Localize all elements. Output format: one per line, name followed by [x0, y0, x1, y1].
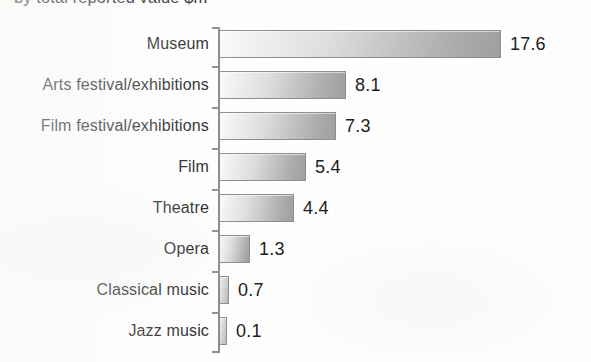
- bar: [220, 112, 336, 140]
- bar-row: Jazz music 0.1: [0, 312, 591, 350]
- bar-value-label: 7.3: [345, 116, 371, 137]
- bar-chart-figure: by total reported value $m Museum 17.6 A…: [0, 0, 591, 362]
- category-label: Opera: [164, 240, 218, 258]
- bar-row: Film festival/exhibitions 7.3: [0, 107, 591, 145]
- bar: [220, 153, 306, 181]
- bar-row: Arts festival/exhibitions 8.1: [0, 66, 591, 104]
- axis-tick: [212, 271, 220, 273]
- bar-value-label: 4.4: [303, 198, 329, 219]
- bar-value-label: 0.1: [236, 321, 262, 342]
- bar-row: Theatre 4.4: [0, 189, 591, 227]
- axis-tick: [212, 148, 220, 150]
- bar-value-label: 5.4: [315, 157, 341, 178]
- category-label: Theatre: [153, 199, 218, 217]
- bar: [220, 235, 250, 263]
- category-label: Museum: [147, 35, 218, 53]
- axis-tick: [212, 351, 220, 353]
- bar-group: 7.3: [220, 112, 371, 140]
- bar: [220, 317, 227, 345]
- bar: [220, 194, 294, 222]
- category-label: Classical music: [97, 281, 219, 299]
- bar: [220, 30, 501, 58]
- bar: [220, 276, 229, 304]
- bar-value-label: 8.1: [355, 75, 381, 96]
- bar-group: 0.1: [220, 317, 262, 345]
- plot-area: Museum 17.6 Arts festival/exhibitions 8.…: [0, 0, 591, 362]
- category-label: Film festival/exhibitions: [41, 117, 218, 135]
- bar-group: 8.1: [220, 71, 381, 99]
- bar-value-label: 17.6: [510, 34, 546, 55]
- axis-tick: [212, 27, 220, 29]
- bar-row: Opera 1.3: [0, 230, 591, 268]
- axis-tick: [212, 107, 220, 109]
- bar-group: 4.4: [220, 194, 329, 222]
- bar-row: Film 5.4: [0, 148, 591, 186]
- category-label: Film: [178, 158, 218, 176]
- axis-tick: [212, 230, 220, 232]
- bar-group: 0.7: [220, 276, 264, 304]
- bar-row: Classical music 0.7: [0, 271, 591, 309]
- category-label: Arts festival/exhibitions: [43, 76, 218, 94]
- category-label: Jazz music: [128, 322, 218, 340]
- bar-group: 17.6: [220, 30, 546, 58]
- bar: [220, 71, 346, 99]
- axis-tick: [212, 312, 220, 314]
- bar-row: Museum 17.6: [0, 25, 591, 63]
- axis-tick: [212, 66, 220, 68]
- chart-title: by total reported value $m: [14, 0, 207, 7]
- bar-value-label: 0.7: [238, 280, 264, 301]
- axis-tick: [212, 189, 220, 191]
- bar-value-label: 1.3: [259, 239, 285, 260]
- category-axis-line: [218, 27, 220, 353]
- bar-group: 1.3: [220, 235, 285, 263]
- bar-group: 5.4: [220, 153, 341, 181]
